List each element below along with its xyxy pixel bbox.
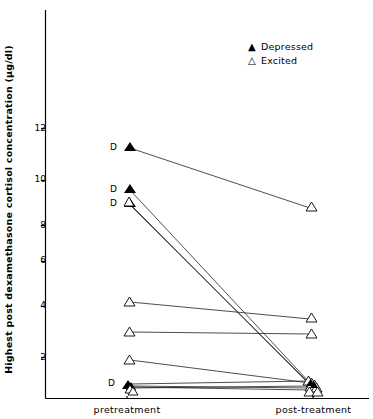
data-point-open-triangle <box>124 197 134 206</box>
data-point-open-triangle <box>124 327 135 336</box>
data-points-depressed-pre <box>122 142 136 390</box>
data-point-filled-triangle <box>124 142 136 151</box>
connector-line-1 <box>130 148 310 208</box>
data-point-open-triangle <box>124 355 135 364</box>
connector-line-7 <box>130 360 310 383</box>
connector-line-2 <box>130 190 311 384</box>
connector-lines <box>130 148 311 390</box>
plot-area <box>0 0 373 419</box>
data-points-excited-pre <box>124 197 138 395</box>
data-point-open-triangle <box>306 313 317 322</box>
connector-line-6 <box>130 332 310 334</box>
data-point-filled-triangle <box>124 184 136 193</box>
connector-line-4 <box>130 205 311 385</box>
data-point-open-triangle <box>306 329 317 338</box>
connector-line-5 <box>130 302 310 319</box>
y-axis-ticks <box>41 129 46 358</box>
data-point-open-triangle <box>306 202 317 211</box>
data-points-post <box>303 202 323 396</box>
connector-line-8 <box>130 381 310 384</box>
figure-container: Highest post dexamethasone cortisol conc… <box>0 0 373 419</box>
data-point-open-triangle <box>124 297 135 306</box>
